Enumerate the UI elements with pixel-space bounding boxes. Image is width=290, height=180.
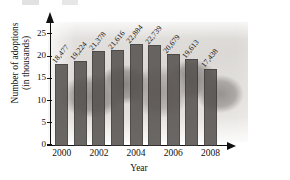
x-tick-label: 2008 xyxy=(198,148,224,158)
y-tick-label: 20 xyxy=(0,51,52,60)
bar xyxy=(74,61,87,146)
y-tick-label: 15 xyxy=(0,73,52,82)
bar xyxy=(55,64,68,146)
adoptions-bar-chart: Number of adoptions (in thousands) 05101… xyxy=(0,0,290,180)
y-tick-label: 5 xyxy=(0,118,52,127)
x-tick-label: 2006 xyxy=(160,148,186,158)
y-tick-label: 10 xyxy=(0,96,52,105)
x-tick-label: 2002 xyxy=(86,148,112,158)
x-tick-label: 2004 xyxy=(123,148,149,158)
clipped-caption-artifact xyxy=(22,0,118,5)
y-tick-label: 25 xyxy=(0,29,52,38)
x-axis-title: Year xyxy=(50,163,228,173)
bar xyxy=(148,45,161,146)
bars-group xyxy=(50,22,228,146)
bar xyxy=(92,51,105,146)
bar xyxy=(130,44,143,146)
bar xyxy=(185,59,198,146)
x-tick-label: 2000 xyxy=(49,148,75,158)
x-axis-arrow-icon xyxy=(227,142,236,150)
bar xyxy=(111,50,124,146)
bar xyxy=(204,69,217,147)
background-photo-hands xyxy=(238,30,290,150)
bar xyxy=(167,54,180,146)
y-tick-label: 0 xyxy=(0,140,52,149)
